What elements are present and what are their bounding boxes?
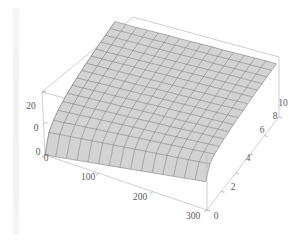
- y-tickmark-3: [250, 154, 253, 155]
- surface-plot-figure: 0100200300 0246810 2000: [0, 0, 299, 241]
- z-axis-tick-labels: 2000: [26, 101, 40, 157]
- y-tick-label-3: 6: [260, 125, 265, 135]
- y-tick-label-5: 10: [278, 98, 288, 108]
- y-tick-label-1: 2: [231, 182, 236, 192]
- x-tick-label-1: 100: [81, 172, 96, 182]
- y-tick-label-0: 0: [214, 211, 219, 221]
- x-tick-label-3: 300: [186, 211, 201, 221]
- x-tickmark-1: [96, 173, 99, 175]
- plot-canvas: 0100200300 0246810 2000: [0, 0, 299, 241]
- z-tickmark-1: [44, 123, 48, 124]
- y-tickmark-2: [236, 173, 239, 174]
- y-tick-label-4: 8: [273, 111, 278, 121]
- z-tick-label-2: 0: [36, 147, 41, 157]
- x-tick-label-0: 0: [44, 153, 49, 163]
- x-tickmark-2: [150, 192, 153, 194]
- y-tickmark-1: [221, 191, 224, 192]
- y-tickmark-5: [279, 117, 282, 118]
- surface-mesh: [45, 22, 276, 182]
- z-tick-label-1: 0: [34, 123, 39, 133]
- y-tickmark-4: [265, 136, 268, 137]
- x-tickmark-3: [204, 210, 207, 212]
- y-tick-label-2: 4: [246, 153, 251, 163]
- x-tick-label-2: 200: [133, 192, 148, 202]
- z-tick-label-0: 20: [26, 101, 36, 111]
- y-tickmark-0: [207, 210, 210, 211]
